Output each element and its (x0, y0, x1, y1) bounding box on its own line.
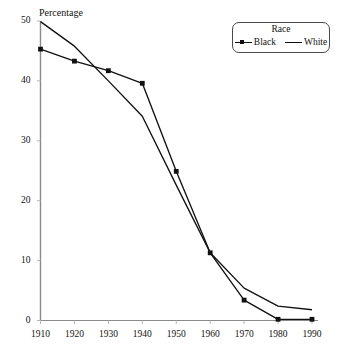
legend-entry-white[interactable]: White (285, 38, 327, 48)
y-tick-label: 20 (9, 196, 31, 206)
x-tick-label: 1960 (193, 330, 227, 340)
x-tick-label: 1940 (125, 330, 159, 340)
y-tick-label: 10 (9, 256, 31, 266)
data-point-marker (72, 59, 77, 64)
x-tick-label: 1970 (227, 330, 261, 340)
y-tick-label: 0 (9, 316, 31, 326)
x-tick-label: 1920 (57, 330, 91, 340)
data-point-marker (140, 81, 145, 86)
line-with-square-marker-icon (235, 39, 252, 47)
legend-label-black: Black (254, 38, 276, 48)
data-point-marker (208, 250, 213, 255)
legend: Race Black White (232, 22, 330, 53)
plain-line-icon (285, 39, 302, 47)
legend-title: Race (233, 24, 329, 34)
legend-label-white: White (304, 38, 327, 48)
data-point-marker (242, 298, 247, 303)
y-tick-label: 30 (9, 136, 31, 146)
data-point-marker (174, 169, 179, 174)
x-tick-label: 1910 (24, 330, 58, 340)
x-tick-label: 1980 (261, 330, 295, 340)
y-tick-label: 50 (9, 16, 31, 26)
x-tick-label: 1930 (91, 330, 125, 340)
data-point-marker (106, 68, 111, 73)
legend-entries: Black White (233, 38, 329, 48)
axis-lines (41, 21, 319, 321)
data-point-marker (310, 317, 315, 322)
x-tick-label: 1950 (159, 330, 193, 340)
legend-entry-black[interactable]: Black (235, 38, 276, 48)
y-tick-label: 40 (9, 76, 31, 86)
data-point-marker (38, 47, 43, 52)
line-chart: Percentage 01020304050 19101920193019401… (0, 0, 344, 352)
series-line-white (41, 22, 313, 310)
x-tick-label: 1990 (295, 330, 329, 340)
data-point-marker (276, 317, 281, 322)
